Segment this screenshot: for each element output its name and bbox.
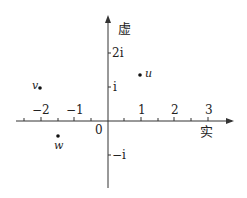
tick-label-3: 3 bbox=[205, 104, 213, 116]
imag-axis-arrow-icon bbox=[105, 15, 111, 23]
complex-plane-diagram: 虚 实 0 −2 −1 1 2 3 2i i −i u v w bbox=[0, 0, 247, 198]
tick-label-1: 1 bbox=[138, 104, 146, 116]
origin-label: 0 bbox=[95, 124, 103, 136]
tick-label-2i: 2i bbox=[112, 47, 123, 59]
tick-label-i: i bbox=[113, 81, 117, 93]
point-u bbox=[138, 73, 142, 77]
tick-label-neg1: −1 bbox=[66, 104, 84, 116]
tick-label-neg-i: −i bbox=[112, 149, 126, 161]
imag-axis-label: 虚 bbox=[118, 22, 131, 35]
point-v bbox=[38, 86, 42, 90]
tick-label-2: 2 bbox=[171, 104, 179, 116]
point-label-v: v bbox=[32, 80, 38, 91]
tick-label-neg2: −2 bbox=[32, 104, 50, 116]
real-axis-label: 实 bbox=[200, 125, 213, 138]
point-label-u: u bbox=[145, 68, 152, 79]
point-label-w: w bbox=[54, 140, 63, 151]
point-w bbox=[56, 134, 60, 138]
real-axis-arrow-icon bbox=[226, 118, 234, 124]
real-ticks bbox=[24, 117, 208, 121]
